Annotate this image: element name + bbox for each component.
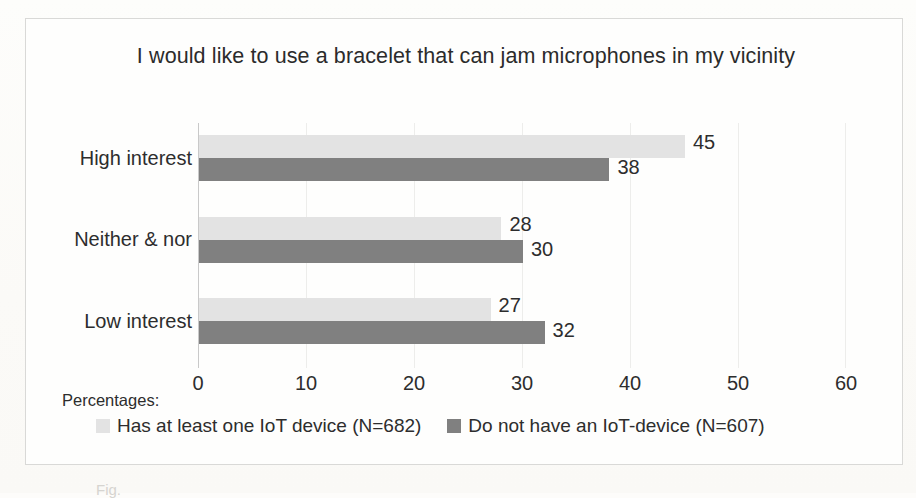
bar-group-neither-nor: 28 30	[199, 205, 846, 287]
bar-value-low-interest-has-iot: 27	[499, 294, 521, 317]
category-label-neither-nor: Neither & nor	[62, 228, 192, 251]
bar-group-high-interest: 45 38	[199, 123, 846, 205]
bar-low-interest-has-iot	[199, 298, 491, 321]
legend-label-no-iot: Do not have an IoT-device (N=607)	[468, 415, 764, 437]
bar-group-low-interest: 27 32	[199, 286, 846, 368]
bar-neither-nor-has-iot	[199, 217, 501, 240]
bar-value-high-interest-has-iot: 45	[693, 131, 715, 154]
chart-frame: I would like to use a bracelet that can …	[25, 18, 903, 465]
figure-caption-stub: Fig.	[96, 481, 121, 498]
bar-high-interest-no-iot	[199, 158, 609, 181]
chart-legend: Has at least one IoT device (N=682) Do n…	[96, 415, 765, 437]
legend-swatch-icon-has-iot	[96, 419, 110, 433]
value-axis-tick-10: 10	[295, 372, 317, 395]
value-axis-tick-50: 50	[727, 372, 749, 395]
legend-label-has-iot: Has at least one IoT device (N=682)	[117, 415, 421, 437]
value-axis-tick-30: 30	[511, 372, 533, 395]
bar-value-neither-nor-has-iot: 28	[509, 213, 531, 236]
percentages-caption: Percentages:	[62, 391, 159, 410]
plot-area: 45 38 28 30 27 32	[198, 123, 846, 368]
chart-title: I would like to use a bracelet that can …	[86, 41, 846, 72]
legend-item-no-iot: Do not have an IoT-device (N=607)	[447, 415, 764, 437]
bar-value-neither-nor-no-iot: 30	[531, 238, 553, 261]
bar-value-high-interest-no-iot: 38	[617, 156, 639, 179]
category-label-low-interest: Low interest	[62, 310, 192, 333]
legend-swatch-icon-no-iot	[447, 419, 461, 433]
bar-high-interest-has-iot	[199, 135, 685, 158]
value-axis-tick-20: 20	[403, 372, 425, 395]
value-axis-tick-40: 40	[619, 372, 641, 395]
category-axis-labels: High interest Neither & nor Low interest	[62, 123, 192, 368]
category-label-high-interest: High interest	[62, 147, 192, 170]
legend-item-has-iot: Has at least one IoT device (N=682)	[96, 415, 421, 437]
value-axis-tick-60: 60	[835, 372, 857, 395]
value-axis-tick-0: 0	[192, 372, 203, 395]
bar-low-interest-no-iot	[199, 321, 545, 344]
bar-neither-nor-no-iot	[199, 240, 523, 263]
bar-value-low-interest-no-iot: 32	[553, 319, 575, 342]
value-axis-tick-labels: 0102030405060	[198, 372, 846, 400]
